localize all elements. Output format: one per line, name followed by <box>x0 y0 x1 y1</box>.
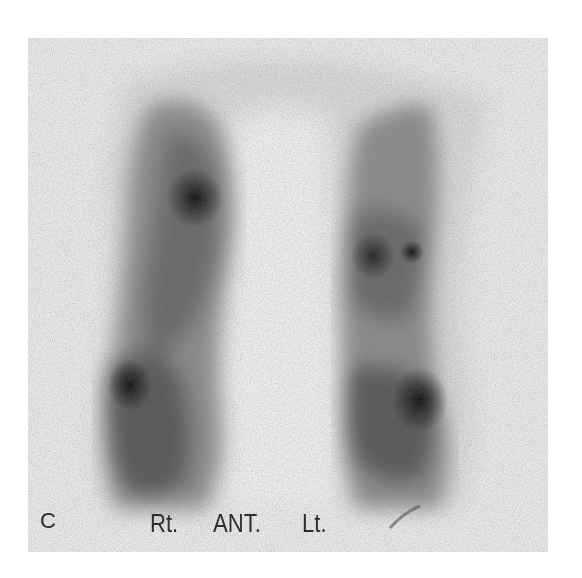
view-label: ANT. <box>213 510 261 536</box>
scintigraphy-figure: C Rt. ANT. Lt. <box>0 0 582 578</box>
scan-frame <box>28 38 548 552</box>
anterior-scan-image <box>28 38 548 552</box>
right-side-label: Rt. <box>150 510 178 536</box>
left-side-label: Lt. <box>302 510 327 536</box>
panel-letter: C <box>40 510 56 532</box>
